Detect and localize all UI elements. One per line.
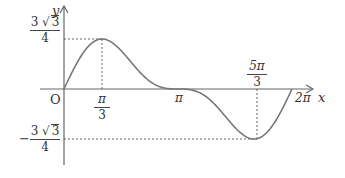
y-tick-min: 3 √3 4 [30, 124, 60, 153]
y-tick-min-sign: − [19, 132, 30, 145]
y-tick-max: 3 √3 4 [30, 15, 60, 44]
x-tick-5pi-over-3: 5π 3 [247, 60, 267, 88]
x-tick-2pi: 2π [295, 92, 311, 104]
origin-label: O [50, 93, 61, 106]
x-tick-pi-over-3: π 3 [94, 93, 110, 121]
x-tick-pi: π [175, 92, 183, 104]
x-axis-label: x [318, 91, 325, 104]
